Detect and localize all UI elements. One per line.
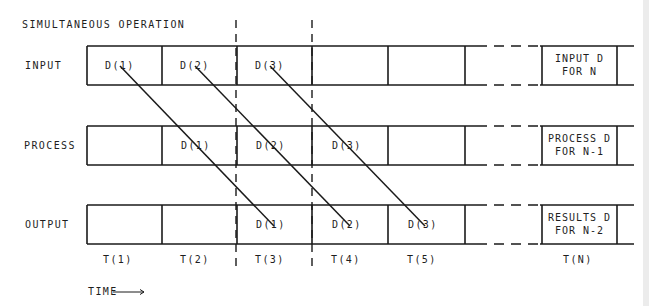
cell-input-t1: D(1) bbox=[105, 60, 135, 71]
cell-process-tn: PROCESS D FOR N-1 bbox=[542, 132, 617, 158]
cell-input-t3: D(3) bbox=[255, 60, 285, 71]
cell-process-t2: D(1) bbox=[181, 140, 211, 151]
cell-output-t3: D(1) bbox=[256, 219, 286, 230]
time-axis-label: TIME bbox=[88, 286, 118, 297]
cell-output-tn: RESULTS D FOR N-2 bbox=[542, 211, 617, 237]
cell-process-tn-line1: PROCESS D bbox=[542, 132, 617, 145]
cell-output-t4: D(2) bbox=[332, 219, 362, 230]
pipeline-diagram: SIMULTANEOUS OPERATION INPUT PROCESS OUT… bbox=[0, 0, 649, 306]
cell-process-tn-line2: FOR N-1 bbox=[542, 145, 617, 158]
time-label-4: T(4) bbox=[331, 254, 361, 265]
cell-output-t5: D(3) bbox=[408, 219, 438, 230]
cell-input-tn-line2: FOR N bbox=[542, 65, 617, 78]
row-label-process: PROCESS bbox=[24, 140, 76, 151]
time-label-3: T(3) bbox=[255, 254, 285, 265]
scan-edge bbox=[643, 0, 649, 306]
row-label-input: INPUT bbox=[25, 60, 62, 71]
cell-process-t3: D(2) bbox=[256, 140, 286, 151]
cell-output-tn-line1: RESULTS D bbox=[542, 211, 617, 224]
cell-output-tn-line2: FOR N-2 bbox=[542, 224, 617, 237]
time-label-n: T(N) bbox=[563, 254, 593, 265]
diagram-title: SIMULTANEOUS OPERATION bbox=[22, 19, 185, 30]
time-label-2: T(2) bbox=[180, 254, 210, 265]
row-label-output: OUTPUT bbox=[25, 219, 70, 230]
time-label-5: T(5) bbox=[407, 254, 437, 265]
cell-input-tn-line1: INPUT D bbox=[542, 52, 617, 65]
time-label-1: T(1) bbox=[103, 254, 133, 265]
cell-input-tn: INPUT D FOR N bbox=[542, 52, 617, 78]
cell-input-t2: D(2) bbox=[180, 60, 210, 71]
cell-process-t4: D(3) bbox=[332, 140, 362, 151]
